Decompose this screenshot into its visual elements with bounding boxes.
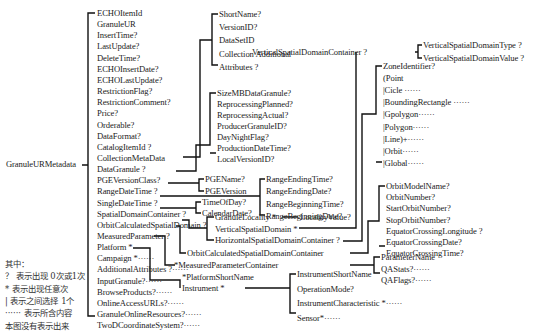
node-item: MeasuredParameter ? (97, 231, 170, 241)
node-item: BrowseProducts?······ (97, 287, 172, 297)
legend-line: 本图没有表示出来 (5, 320, 69, 332)
collection-item: ShortName? (219, 9, 261, 19)
instrument-item: OperationMode? (297, 284, 354, 294)
node-item: SpatialDomainContainer ? (97, 209, 186, 219)
locality-value-node: LocalityValue? (300, 212, 351, 222)
node-item: LastUpdate? (97, 41, 139, 51)
node-item: TwoDCoordinateSystem?······ (97, 320, 200, 330)
measured-item: QAFlags?······ (381, 275, 432, 285)
pge-connector (168, 179, 204, 191)
range-item: RangeEndingDate? (266, 186, 331, 196)
orbit-item: StopOrbitNumber? (386, 215, 450, 225)
collection-item: VersionID? (219, 22, 257, 32)
measured-item: QAStats?······ (381, 264, 430, 274)
node-item: InsertTime? (97, 30, 137, 40)
datagranule-item: ProducerGranuleID? (217, 121, 287, 131)
node-item: CatalogItemId ? (97, 142, 151, 152)
spatial-item: GranuleLocality * (215, 212, 276, 222)
horizontal-item: |Gpolygon······ (383, 109, 435, 119)
datagranule-connector (176, 93, 216, 171)
datagranule-item: ReprocessingActual? (217, 110, 288, 120)
legend-line: * 表示出现任意次 (5, 283, 68, 295)
horizontal-item: |Global······ (383, 158, 424, 168)
vertical-item: VerticalSpatialDomainType ? (423, 40, 522, 50)
orbit-item: OrbitModelName? (386, 181, 449, 191)
horizontal-item: |Cicle ······ (383, 85, 421, 95)
horizontal-item: ZoneIdentifier? (383, 61, 435, 71)
datagranule-item: ProductionDateTime? (217, 143, 291, 153)
orbit-container-node: OrbitCalculatedSpatialDomainContainer (187, 248, 324, 258)
node-item: ECHOInsertDate? (97, 64, 159, 74)
instrument-item: InstrumentCharacteristic *······ (297, 298, 402, 308)
node-item: GranuleUR (97, 19, 136, 29)
node-item: RangeDateTime ? (97, 186, 157, 196)
node-item: Campaign *······ (97, 253, 154, 263)
orbit-item: EquatorCrossingDate? (386, 237, 462, 247)
collection-item: Attributes ? (219, 62, 258, 72)
collection-connector (183, 14, 218, 157)
orbit-item: StartOrbitNumber? (386, 203, 451, 213)
node-item: OnlineAccessURLs?······ (97, 298, 184, 308)
node-item: OrbitCalculatedSpatialDomain ? (97, 220, 206, 230)
node-item: DataGranule ? (97, 164, 146, 174)
pge-item: PGEVersion (205, 186, 247, 196)
vertical-container-node: VerticalSpatialDomainContainer ? (252, 47, 367, 57)
horizontal-item: |BoundingRectangle ······ (383, 97, 470, 107)
platform-item: Instrument * (182, 283, 224, 293)
node-item: Price? (97, 108, 118, 118)
spatial-item: VerticalSpatialDomain * (215, 224, 297, 234)
node-item: RestrictionFlag? (97, 86, 152, 96)
node-item: Orderable? (97, 120, 134, 130)
horizontal-item: |Orbit······ (383, 146, 419, 156)
collection-item: DataSetID (219, 35, 254, 45)
node-item: DeleteTime? (97, 53, 140, 63)
measured-container-node: *MeasuredParameterContainer (174, 260, 278, 270)
orbit-connector (366, 186, 385, 253)
single-date-item: TimeOfDay? (202, 197, 246, 207)
orbit-item: EquatorCrossingLongitude ? (386, 226, 482, 236)
pge-item: PGEName? (205, 174, 245, 184)
datagranule-item: DayNightFlag? (217, 132, 269, 142)
vertical-item: VerticalSpatialDomainValue ? (423, 53, 524, 63)
node-item: ECHOLastUpdate? (97, 75, 162, 85)
platform-item: *PlatformShortName (182, 272, 254, 282)
legend-line: 其中： (5, 258, 29, 270)
datagranule-item: SizeMBDataGranule? (217, 88, 291, 98)
datagranule-item: LocalVersionID? (217, 154, 274, 164)
node-item: DataFormat? (97, 131, 141, 141)
horizontal-item: |Polygon······ (383, 122, 429, 132)
node-item: GranuleOnlineResources?······ (97, 309, 201, 319)
horizontal-item: |Line)+······ (383, 134, 424, 144)
spatial-item: HorizontalSpatialDomainContainer ? (215, 235, 340, 245)
orbit-item: OrbitNumber? (386, 192, 435, 202)
instrument-item: Sensor*······ (297, 313, 341, 323)
instrument-item: InstrumentShortName (297, 269, 371, 279)
vertical-connector (415, 45, 422, 58)
range-item: RangeBeginningTime? (266, 199, 344, 209)
horizontal-item: (Point (383, 73, 403, 83)
root-node: GranuleURMetadata (6, 159, 76, 169)
collection-dot: · (232, 62, 235, 72)
measured-item: ParameterName (381, 252, 435, 262)
node-item: Platform * (97, 242, 133, 252)
node-item: SingleDateTime ? (97, 198, 157, 208)
legend-line: ？ 表示出现 0次或1次 (5, 270, 85, 282)
node-item: ECHOItemId (97, 8, 142, 18)
node-item: CollectionMetaData (97, 153, 165, 163)
range-item: RangeEndingTime? (266, 174, 333, 184)
node-item: RestrictionComment? (97, 97, 171, 107)
datagranule-item: ReprocessingPlanned? (217, 99, 293, 109)
legend-line: | 表示之间选择 1个 (5, 295, 74, 307)
node-item: InputGranule?······ (97, 276, 162, 286)
node-item: PGEVersionClass? (97, 175, 160, 185)
legend-line: ······ 表示所含内容 (5, 307, 72, 319)
